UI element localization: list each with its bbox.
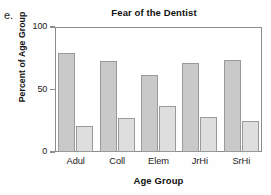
figure-container: e. Fear of the Dentist Percent of Age Gr… (0, 0, 271, 195)
bar-group (100, 27, 135, 152)
bar (224, 60, 241, 153)
x-tick-label: SrHi (221, 156, 262, 166)
bar (242, 121, 259, 152)
bar (159, 106, 176, 152)
y-tick-label: 100 (7, 21, 47, 31)
bar-group (224, 27, 259, 152)
y-tick-label: 0 (7, 146, 47, 156)
x-tick-label: JrHi (179, 156, 220, 166)
figure-label: e. (4, 9, 13, 21)
bar-group (58, 27, 93, 152)
bar (58, 53, 75, 152)
bar-group (182, 27, 217, 152)
bar (182, 63, 199, 152)
bar-group (141, 27, 176, 152)
bar (200, 117, 217, 152)
bar (118, 118, 135, 152)
x-tick-label: Coll (96, 156, 137, 166)
x-axis-title: Age Group (55, 175, 262, 186)
x-tick-label: Adul (55, 156, 96, 166)
bar (76, 126, 93, 152)
bar (141, 75, 158, 153)
bar (100, 61, 117, 152)
x-tick-label: Elem (138, 156, 179, 166)
chart-title: Fear of the Dentist (45, 7, 263, 18)
plot-area (55, 27, 262, 152)
y-tick-label: 50 (7, 84, 47, 94)
y-axis-title: Percent of Age Group (17, 2, 27, 112)
